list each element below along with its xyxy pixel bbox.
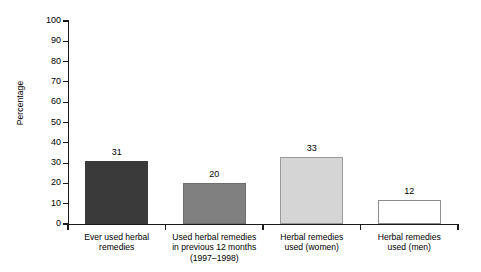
y-axis-tick [63,41,69,42]
x-axis-tick [262,224,263,230]
y-axis-tick-label: 60 [15,97,61,106]
y-axis-tick-label-wrap: 100 [0,16,61,26]
bar-4 [378,200,441,224]
y-axis-tick [63,81,69,82]
y-axis-tick-label-wrap: 50 [0,118,61,128]
y-axis-tick [63,203,69,204]
x-axis-tick [165,224,166,230]
y-axis-tick-label-wrap: 80 [0,57,61,67]
x-axis-tick [67,224,68,230]
x-axis-tick [360,224,361,230]
bar-value-label: 33 [282,143,342,153]
y-axis-tick-label-wrap: 70 [0,77,61,87]
y-axis-tick [63,163,69,164]
y-axis-tick-label-wrap: 60 [0,97,61,107]
y-axis-tick-label: 70 [15,77,61,86]
bar-value-label: 31 [87,147,147,157]
y-axis-tick [63,183,69,184]
bar-2 [183,183,246,224]
y-axis-tick-label-wrap: 10 [0,199,61,209]
x-axis-tick [457,224,458,230]
y-axis-tick [63,142,69,143]
y-axis-tick [63,122,69,123]
bar-1 [85,161,148,224]
bar-chart: Percentage 0102030405060708090100 312033… [0,0,481,272]
category-label-1: Ever used herbal remedies [61,232,173,253]
y-axis-tick-label-wrap: 40 [0,138,61,148]
bar-value-label: 20 [184,169,244,179]
bar-3 [280,157,343,224]
y-axis-tick [63,20,69,21]
y-axis-tick-label: 0 [15,219,61,228]
y-axis-tick-label-wrap: 90 [0,36,61,46]
y-axis-tick-label: 30 [15,158,61,167]
y-axis-tick [63,102,69,103]
y-axis-tick-label-wrap: 30 [0,158,61,168]
bar-value-label: 12 [379,186,439,196]
category-label-4: Herbal remedies used (men) [353,232,465,253]
y-axis-tick-label: 100 [15,16,61,25]
y-axis-tick-label: 10 [15,199,61,208]
category-label-3: Herbal remedies used (women) [256,232,368,253]
y-axis-tick-label: 50 [15,118,61,127]
y-axis-tick-label: 80 [15,57,61,66]
y-axis-tick [63,61,69,62]
y-axis-tick-label: 40 [15,138,61,147]
y-axis-tick-label: 90 [15,36,61,45]
y-axis-tick-label-wrap: 20 [0,178,61,188]
y-axis-tick-label: 20 [15,178,61,187]
category-label-2: Used herbal remedies in previous 12 mont… [158,232,270,263]
y-axis-tick-label-wrap: 0 [0,219,61,229]
